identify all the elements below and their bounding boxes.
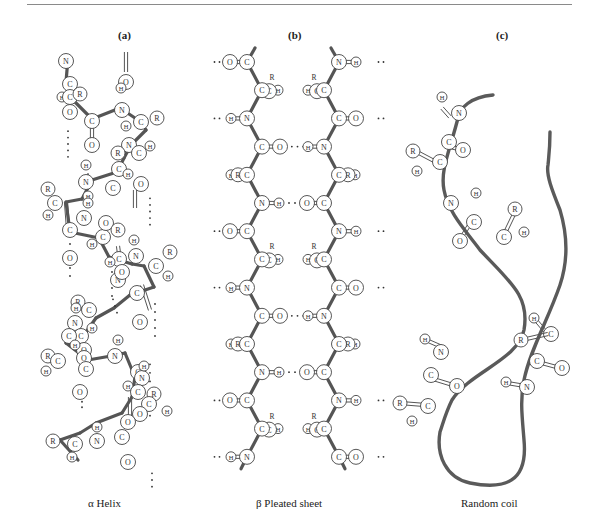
- svg-text:C: C: [471, 218, 476, 227]
- svg-text:O: O: [277, 312, 283, 321]
- atom-c: C: [106, 181, 121, 196]
- svg-text:C: C: [100, 233, 105, 242]
- svg-text:R: R: [518, 336, 524, 345]
- svg-text:H: H: [532, 315, 537, 322]
- svg-text:C: C: [55, 357, 60, 366]
- atom-h: H: [92, 422, 102, 432]
- svg-text:C: C: [501, 233, 506, 242]
- svg-text:O: O: [138, 180, 144, 189]
- atom-o: O: [349, 111, 364, 126]
- atom-c: C: [132, 146, 147, 161]
- beta-sheet-panel: OCHNHCCRHCCRHNOCOCHNHRCHRCHNOCOCHNHCCRHC…: [214, 48, 385, 469]
- atom-h: H: [437, 92, 447, 102]
- svg-text:O: O: [277, 143, 283, 152]
- atom-c: C: [255, 252, 270, 267]
- svg-text:C: C: [86, 306, 91, 315]
- atom-c: C: [48, 196, 63, 211]
- atom-h: H: [70, 340, 80, 350]
- atom-n: N: [434, 345, 449, 360]
- svg-text:H: H: [522, 229, 527, 236]
- atom-c: C: [255, 139, 270, 154]
- svg-text:C: C: [446, 138, 451, 147]
- svg-text:N: N: [94, 437, 100, 446]
- atom-o: O: [115, 265, 130, 280]
- atom-o: O: [121, 415, 136, 430]
- atom-h: H: [105, 257, 115, 267]
- atom-n: N: [108, 349, 123, 364]
- atom-n: N: [332, 55, 347, 70]
- svg-text:C: C: [110, 184, 115, 193]
- svg-text:C: C: [259, 86, 264, 95]
- atom-h: H: [274, 367, 284, 377]
- svg-text:C: C: [259, 425, 264, 434]
- atom-c: C: [82, 303, 97, 318]
- svg-text:O: O: [89, 141, 95, 150]
- atom-c: C: [255, 421, 270, 436]
- svg-text:N: N: [83, 178, 89, 187]
- svg-text:C: C: [244, 396, 249, 405]
- svg-text:H: H: [84, 162, 89, 169]
- svg-text:R: R: [311, 73, 316, 82]
- atom-h: H: [121, 121, 131, 131]
- atom-h: H: [303, 311, 313, 321]
- svg-text:R: R: [77, 90, 83, 99]
- atom-n: N: [79, 175, 94, 190]
- atom-c: C: [433, 155, 448, 170]
- atom-c: C: [317, 365, 332, 380]
- atom-n: N: [115, 103, 130, 118]
- svg-text:N: N: [321, 143, 327, 152]
- svg-text:N: N: [438, 348, 444, 357]
- svg-text:H: H: [306, 313, 311, 320]
- svg-text:C: C: [136, 149, 141, 158]
- atom-c: C: [332, 111, 347, 126]
- svg-text:H: H: [306, 144, 311, 151]
- svg-text:H: H: [116, 337, 121, 344]
- atom-n: N: [90, 434, 105, 449]
- svg-text:O: O: [304, 368, 310, 377]
- svg-text:O: O: [67, 254, 73, 263]
- svg-text:N: N: [244, 284, 250, 293]
- atom-o: O: [453, 234, 468, 249]
- svg-text:H: H: [474, 190, 479, 197]
- atom-n: N: [332, 224, 347, 239]
- svg-text:O: O: [67, 108, 73, 117]
- atom-h: H: [412, 166, 422, 176]
- atom-c: C: [544, 327, 559, 342]
- svg-text:H: H: [354, 397, 359, 404]
- atom-r: R: [393, 396, 407, 410]
- atom-c: C: [332, 337, 347, 352]
- svg-text:C: C: [83, 365, 88, 374]
- svg-text:C: C: [336, 340, 341, 349]
- atom-h: H: [226, 113, 236, 123]
- atom-n: N: [520, 380, 535, 395]
- atom-n: N: [317, 308, 332, 323]
- svg-text:C: C: [116, 165, 121, 174]
- atom-n: N: [444, 196, 459, 211]
- svg-text:C: C: [72, 440, 77, 449]
- alpha-helix-panel: NCHCOROHNCOCRHNHCRCHONHCHRCHCONHCHORCHNH…: [41, 52, 177, 488]
- atom-o: O: [456, 143, 471, 158]
- svg-text:C: C: [244, 171, 249, 180]
- svg-text:H: H: [165, 408, 170, 415]
- svg-text:N: N: [81, 214, 87, 223]
- svg-text:O: O: [125, 458, 131, 467]
- atom-n: N: [317, 139, 332, 154]
- atom-n: N: [332, 393, 347, 408]
- atom-c: C: [96, 230, 111, 245]
- svg-text:O: O: [103, 219, 109, 228]
- atom-c: C: [421, 399, 436, 414]
- atom-c: C: [424, 368, 439, 383]
- svg-text:R: R: [269, 412, 274, 421]
- atom-c: C: [68, 437, 83, 452]
- svg-text:R: R: [512, 205, 518, 214]
- atom-h: H: [303, 142, 313, 152]
- svg-text:N: N: [244, 453, 250, 462]
- atom-c: C: [332, 280, 347, 295]
- svg-text:C: C: [336, 171, 341, 180]
- svg-text:N: N: [259, 199, 265, 208]
- atom-n: N: [240, 449, 255, 464]
- atom-h: H: [420, 334, 430, 344]
- atom-h: H: [226, 283, 236, 293]
- svg-text:H: H: [108, 259, 113, 266]
- atom-n: N: [240, 280, 255, 295]
